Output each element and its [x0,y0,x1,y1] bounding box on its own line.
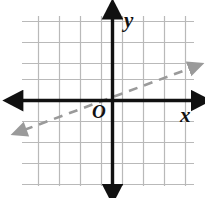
x-axis-label: x [179,103,191,127]
coordinate-plane-figure: y x O [0,0,205,198]
origin-label: O [92,101,106,122]
coordinate-plane-svg: y x O [0,0,205,198]
